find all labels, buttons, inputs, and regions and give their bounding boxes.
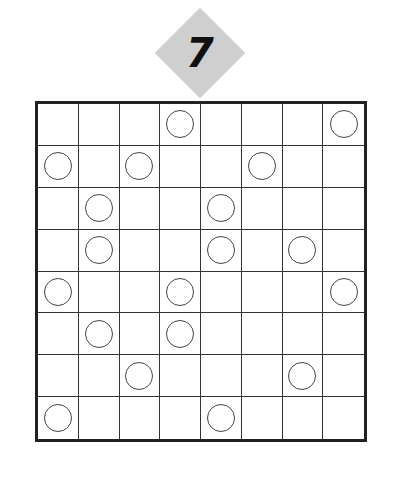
grid-cell[interactable] (160, 397, 201, 439)
grid-cell[interactable] (79, 272, 120, 314)
grid-cell[interactable] (38, 230, 79, 272)
grid-cell[interactable] (79, 146, 120, 188)
grid-cell[interactable] (120, 230, 161, 272)
puzzle-grid (35, 101, 367, 442)
circle-icon (248, 152, 276, 180)
grid-cell[interactable] (38, 355, 79, 397)
grid-cell[interactable] (160, 230, 201, 272)
grid-cell[interactable] (242, 188, 283, 230)
circle-icon (330, 110, 358, 138)
grid-cell[interactable] (38, 272, 79, 314)
circle-icon (44, 278, 72, 306)
grid-cell[interactable] (79, 313, 120, 355)
grid-cell[interactable] (38, 397, 79, 439)
circle-icon (166, 278, 194, 306)
grid-cell[interactable] (283, 272, 324, 314)
grid-cell[interactable] (242, 313, 283, 355)
grid-cell[interactable] (201, 188, 242, 230)
grid-cell[interactable] (160, 313, 201, 355)
grid-cell[interactable] (160, 355, 201, 397)
grid-cell[interactable] (242, 146, 283, 188)
circle-icon (207, 194, 235, 222)
grid-cell[interactable] (201, 397, 242, 439)
grid-cell[interactable] (283, 104, 324, 146)
grid-cell[interactable] (323, 146, 364, 188)
grid-cell[interactable] (201, 104, 242, 146)
grid-cell[interactable] (283, 188, 324, 230)
grid-cell[interactable] (120, 355, 161, 397)
grid-cell[interactable] (201, 355, 242, 397)
grid-cell[interactable] (323, 104, 364, 146)
grid-cell[interactable] (283, 355, 324, 397)
grid-cell[interactable] (323, 188, 364, 230)
grid-cell[interactable] (38, 313, 79, 355)
circle-icon (207, 404, 235, 432)
grid-cell[interactable] (242, 355, 283, 397)
grid-cell[interactable] (283, 146, 324, 188)
grid-cell[interactable] (283, 397, 324, 439)
circle-icon (166, 320, 194, 348)
puzzle-number: 7 (170, 28, 230, 78)
grid-cell[interactable] (38, 146, 79, 188)
grid-cell[interactable] (323, 272, 364, 314)
grid-cell[interactable] (242, 230, 283, 272)
grid-cell[interactable] (201, 272, 242, 314)
grid-cell[interactable] (323, 397, 364, 439)
grid-cell[interactable] (120, 104, 161, 146)
grid-cell[interactable] (160, 146, 201, 188)
circle-icon (44, 404, 72, 432)
grid-cell[interactable] (160, 188, 201, 230)
grid-cell[interactable] (201, 146, 242, 188)
grid-cell[interactable] (242, 104, 283, 146)
grid-cell[interactable] (120, 272, 161, 314)
grid-cell[interactable] (201, 313, 242, 355)
grid-cell[interactable] (160, 272, 201, 314)
circle-icon (166, 110, 194, 138)
grid-cell[interactable] (120, 313, 161, 355)
grid-cell[interactable] (242, 397, 283, 439)
grid-cell[interactable] (79, 188, 120, 230)
circle-icon (125, 152, 153, 180)
grid-cell[interactable] (323, 355, 364, 397)
grid-cell[interactable] (79, 230, 120, 272)
grid-cell[interactable] (323, 230, 364, 272)
circle-icon (125, 362, 153, 390)
grid-cell[interactable] (79, 355, 120, 397)
grid-cell[interactable] (79, 397, 120, 439)
circle-icon (44, 152, 72, 180)
circle-icon (288, 236, 316, 264)
grid-cell[interactable] (283, 230, 324, 272)
circle-icon (330, 278, 358, 306)
grid-cell[interactable] (160, 104, 201, 146)
circle-icon (85, 194, 113, 222)
circle-icon (85, 320, 113, 348)
grid-cell[interactable] (120, 188, 161, 230)
grid-cell[interactable] (120, 146, 161, 188)
grid-cell[interactable] (323, 313, 364, 355)
grid-cell[interactable] (120, 397, 161, 439)
grid-cell[interactable] (242, 272, 283, 314)
circle-icon (288, 362, 316, 390)
circle-icon (207, 236, 235, 264)
grid-cell[interactable] (38, 104, 79, 146)
grid-cell[interactable] (79, 104, 120, 146)
grid-cell[interactable] (201, 230, 242, 272)
grid-cell[interactable] (38, 188, 79, 230)
circle-icon (85, 236, 113, 264)
grid-cell[interactable] (283, 313, 324, 355)
